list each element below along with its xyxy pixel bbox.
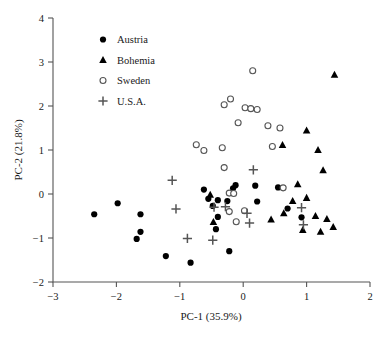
- legend: AustriaBohemiaSwedenU.S.A.: [98, 34, 155, 107]
- marker-plus: [299, 220, 308, 229]
- marker-open-circle: [193, 142, 199, 148]
- marker-filled-circle: [91, 211, 97, 217]
- marker-open-circle: [201, 147, 207, 153]
- series-usa: [168, 165, 308, 245]
- y-tick-label: 4: [39, 13, 45, 24]
- marker-filled-circle: [187, 260, 193, 266]
- marker-plus: [183, 234, 192, 243]
- y-tick-label: 3: [39, 57, 44, 68]
- marker-filled-circle: [213, 226, 219, 232]
- marker-filled-triangle: [329, 223, 337, 230]
- marker-filled-circle: [254, 198, 260, 204]
- legend-item-sweden: Sweden: [100, 75, 151, 86]
- y-tick-label: −2: [33, 277, 44, 288]
- legend-item-label: U.S.A.: [117, 96, 146, 107]
- marker-plus: [171, 204, 180, 213]
- marker-open-circle: [265, 123, 271, 129]
- marker-filled-triangle: [312, 212, 320, 219]
- marker-filled-circle: [115, 200, 121, 206]
- marker-open-circle: [248, 106, 254, 112]
- marker-filled-triangle: [303, 127, 311, 134]
- marker-filled-circle: [284, 205, 290, 211]
- marker-plus: [208, 236, 217, 245]
- marker-open-circle: [254, 107, 260, 113]
- marker-filled-circle: [201, 187, 207, 193]
- marker-filled-circle: [252, 183, 258, 189]
- marker-filled-triangle: [206, 191, 214, 198]
- x-tick-labels: −3−2−1012: [47, 291, 372, 302]
- tick-marks: [48, 18, 370, 287]
- marker-filled-triangle: [331, 71, 339, 78]
- marker-open-circle: [242, 105, 248, 111]
- marker-plus: [98, 96, 107, 105]
- marker-open-circle: [221, 165, 227, 171]
- legend-item-usa: U.S.A.: [98, 96, 145, 107]
- x-tick-label: −2: [111, 291, 122, 302]
- marker-filled-circle: [226, 248, 232, 254]
- marker-filled-triangle: [267, 215, 275, 222]
- y-tick-labels: −2−101234: [33, 13, 45, 288]
- marker-filled-circle: [298, 214, 304, 220]
- marker-filled-triangle: [279, 141, 287, 148]
- axes: [53, 18, 370, 282]
- marker-open-circle: [233, 219, 239, 225]
- marker-filled-circle: [100, 36, 106, 42]
- y-axis-title: PC-2 (21.8%): [12, 119, 25, 180]
- chart-canvas: −3−2−1012 −2−101234 AustriaBohemiaSweden…: [0, 0, 389, 341]
- marker-filled-triangle: [303, 194, 311, 201]
- marker-open-circle: [226, 209, 232, 215]
- marker-open-circle: [250, 68, 256, 74]
- marker-plus: [249, 165, 258, 174]
- marker-plus: [297, 203, 306, 212]
- legend-item-bohemia: Bohemia: [99, 55, 155, 66]
- x-tick-label: 2: [367, 291, 372, 302]
- marker-filled-circle: [215, 197, 221, 203]
- marker-filled-triangle: [289, 197, 297, 204]
- x-tick-label: −3: [47, 291, 58, 302]
- scatter-plot-figure: −3−2−1012 −2−101234 AustriaBohemiaSweden…: [0, 0, 389, 341]
- marker-filled-triangle: [99, 56, 107, 63]
- x-tick-label: 1: [304, 291, 309, 302]
- marker-filled-circle: [163, 253, 169, 259]
- marker-filled-triangle: [319, 166, 327, 173]
- legend-item-label: Bohemia: [117, 55, 155, 66]
- marker-filled-triangle: [317, 228, 325, 235]
- marker-open-circle: [280, 185, 286, 191]
- axis-spines: [53, 18, 370, 282]
- marker-filled-triangle: [294, 180, 302, 187]
- y-tick-label: 0: [39, 189, 44, 200]
- marker-plus: [168, 176, 177, 185]
- series-austria: [91, 182, 305, 266]
- marker-filled-circle: [232, 182, 238, 188]
- marker-plus: [245, 218, 254, 227]
- marker-filled-circle: [134, 236, 140, 242]
- legend-item-label: Austria: [117, 34, 148, 45]
- marker-open-circle: [219, 145, 225, 151]
- y-tick-label: 1: [39, 145, 44, 156]
- legend-item-label: Sweden: [117, 75, 151, 86]
- marker-filled-circle: [137, 229, 143, 235]
- marker-open-circle: [269, 143, 275, 149]
- legend-item-austria: Austria: [100, 34, 148, 45]
- marker-open-circle: [100, 78, 106, 84]
- y-tick-label: −1: [33, 233, 44, 244]
- y-tick-label: 2: [39, 101, 44, 112]
- marker-open-circle: [221, 102, 227, 108]
- x-axis-title: PC-1 (35.9%): [180, 310, 241, 323]
- marker-filled-triangle: [323, 215, 331, 222]
- marker-filled-circle: [137, 211, 143, 217]
- marker-open-circle: [228, 96, 234, 102]
- marker-filled-triangle: [314, 146, 322, 153]
- marker-filled-circle: [210, 203, 216, 209]
- x-tick-label: −1: [174, 291, 185, 302]
- marker-open-circle: [235, 120, 241, 126]
- marker-open-circle: [231, 191, 237, 197]
- marker-filled-circle: [215, 214, 221, 220]
- x-tick-label: 0: [241, 291, 246, 302]
- marker-open-circle: [277, 125, 283, 131]
